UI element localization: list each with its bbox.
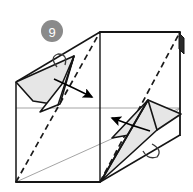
step-badge-label: 9 [48,25,55,40]
origami-figure-canvas: 9 [0,0,193,192]
step-badge: 9 [41,20,63,42]
origami-step-diagram: 9 [0,0,193,192]
